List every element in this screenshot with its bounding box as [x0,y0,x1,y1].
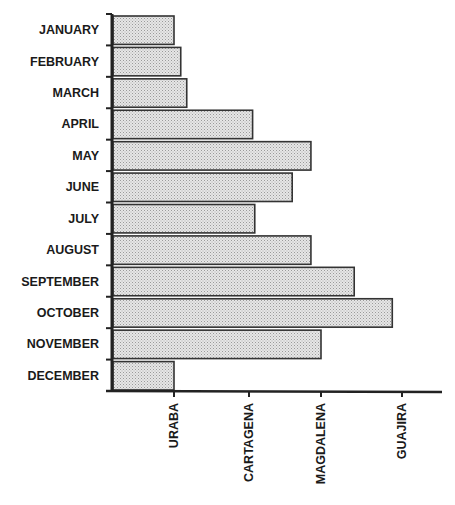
x-label-uraba: URABA [167,403,181,448]
bar-february [113,47,181,75]
bar-june [113,173,292,201]
bar-january [113,16,174,44]
x-label-cartagena: CARTAGENA [242,403,256,482]
y-label-april: APRIL [62,117,100,131]
bar-july [113,205,255,233]
y-label-march: MARCH [52,86,99,100]
bar-march [113,79,187,107]
y-axis-labels: JANUARYFEBRUARYMARCHAPRILMAYJUNEJULYAUGU… [21,23,99,383]
bars-group [113,16,392,390]
bar-august [113,236,311,264]
y-label-november: NOVEMBER [27,337,99,351]
x-label-magdalena: MAGDALENA [314,403,328,484]
bar-october [113,299,392,327]
y-label-december: DECEMBER [27,369,99,383]
y-label-may: MAY [72,149,99,163]
y-label-january: JANUARY [39,23,100,37]
bar-may [113,142,311,170]
bar-november [113,330,321,358]
y-label-september: SEPTEMBER [21,275,99,289]
x-axis-line [106,391,442,392]
x-label-guajira: GUAJIRA [395,403,409,459]
bar-chart: JANUARYFEBRUARYMARCHAPRILMAYJUNEJULYAUGU… [0,0,455,505]
bar-april [113,110,253,138]
bar-september [113,267,354,295]
y-label-june: JUNE [66,180,99,194]
y-label-february: FEBRUARY [30,55,100,69]
y-label-july: JULY [68,212,99,226]
bar-december [113,362,174,390]
y-label-october: OCTOBER [37,306,99,320]
x-axis-labels: URABACARTAGENAMAGDALENAGUAJIRA [167,403,409,484]
y-label-august: AUGUST [46,243,99,257]
